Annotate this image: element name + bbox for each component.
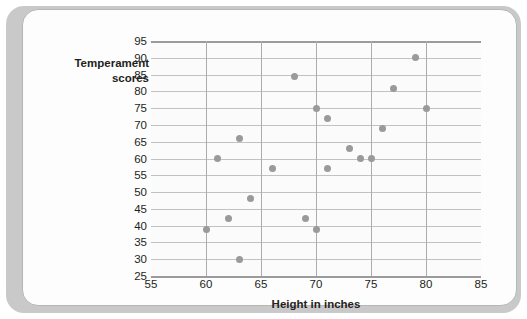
x-tick-label: 60	[200, 278, 213, 290]
x-tick-label: 80	[420, 278, 433, 290]
y-tick-label: 45	[107, 203, 147, 215]
y-tick-label: 90	[107, 52, 147, 64]
data-point	[236, 135, 243, 142]
x-axis-tick-labels: 55606570758085	[151, 278, 481, 298]
y-tick-label: 40	[107, 220, 147, 232]
x-tick-label: 75	[365, 278, 378, 290]
x-gridline	[316, 41, 317, 276]
y-axis-tick-labels: 253035404550556065707580859095	[103, 41, 147, 276]
data-point	[390, 85, 397, 92]
y-tick-label: 85	[107, 69, 147, 81]
x-tick-label: 85	[475, 278, 488, 290]
data-point	[357, 155, 364, 162]
data-point	[412, 54, 419, 61]
scatter-plot-figure: Temperament scores 253035404550556065707…	[0, 0, 527, 319]
data-point	[247, 195, 254, 202]
y-tick-label: 75	[107, 102, 147, 114]
y-tick-label: 35	[107, 236, 147, 248]
x-tick-label: 55	[145, 278, 158, 290]
y-tick-label: 60	[107, 153, 147, 165]
data-point	[324, 115, 331, 122]
y-tick-label: 65	[107, 136, 147, 148]
data-point	[313, 105, 320, 112]
plot-area	[151, 41, 481, 276]
data-point	[346, 145, 353, 152]
data-point	[324, 165, 331, 172]
y-tick-label: 70	[107, 119, 147, 131]
x-gridline	[426, 41, 427, 276]
x-tick-label: 65	[255, 278, 268, 290]
data-point	[313, 226, 320, 233]
data-point	[214, 155, 221, 162]
data-point	[423, 105, 430, 112]
x-axis-title: Height in inches	[151, 298, 481, 310]
data-point	[368, 155, 375, 162]
x-tick-label: 70	[310, 278, 323, 290]
y-tick-label: 25	[107, 270, 147, 282]
data-point	[379, 125, 386, 132]
x-gridline	[261, 41, 262, 276]
data-point	[291, 73, 298, 80]
y-tick-label: 50	[107, 186, 147, 198]
y-tick-label: 55	[107, 169, 147, 181]
y-tick-label: 30	[107, 253, 147, 265]
data-point	[269, 165, 276, 172]
y-tick-label: 80	[107, 85, 147, 97]
data-point	[203, 226, 210, 233]
figure-card: Temperament scores 253035404550556065707…	[22, 9, 517, 306]
data-point	[225, 215, 232, 222]
data-point	[236, 256, 243, 263]
y-tick-label: 95	[107, 35, 147, 47]
x-gridline	[206, 41, 207, 276]
data-point	[302, 215, 309, 222]
